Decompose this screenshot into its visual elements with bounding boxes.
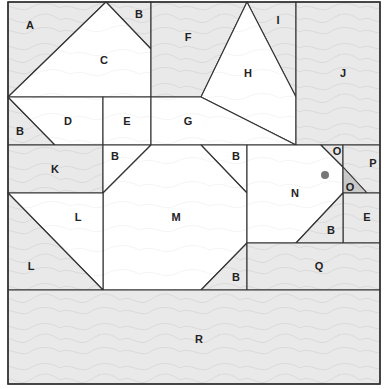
piece-label: B [232, 150, 240, 162]
piece-label: B [111, 150, 119, 162]
marker-dot [321, 171, 329, 179]
piece-label: P [369, 157, 376, 169]
piece-label: K [51, 163, 59, 175]
piece-texture [247, 243, 380, 290]
piece-label: J [340, 67, 346, 79]
piece-label: F [185, 31, 192, 43]
piece-texture [296, 2, 380, 145]
puzzle-canvas: ABCFIHJBDEGKBBMLLNOPOEBBQR [0, 0, 385, 389]
piece-label: E [123, 115, 130, 127]
piece-q: Q [247, 243, 380, 290]
piece-e: E [103, 97, 151, 145]
piece-e: E [343, 193, 380, 243]
piece-label: L [75, 211, 82, 223]
piece-label: R [195, 333, 203, 345]
piece-label: O [333, 145, 342, 157]
piece-label: O [346, 181, 355, 193]
piece-label: B [135, 8, 143, 20]
piece-label: E [363, 211, 370, 223]
piece-label: M [171, 211, 180, 223]
piece-k: K [8, 145, 103, 193]
piece-label: H [244, 67, 252, 79]
piece-texture [343, 193, 380, 243]
piece-label: C [100, 54, 108, 66]
piece-label: B [232, 271, 240, 283]
piece-label: N [291, 187, 299, 199]
piece-label: D [64, 115, 72, 127]
puzzle-diagram: ABCFIHJBDEGKBBMLLNOPOEBBQR [0, 0, 385, 389]
piece-r: R [8, 290, 380, 384]
piece-label: I [276, 14, 279, 26]
piece-label: G [184, 115, 193, 127]
piece-label: Q [315, 260, 324, 272]
piece-texture [8, 290, 380, 384]
piece-label: B [327, 224, 335, 236]
piece-j: J [296, 2, 380, 145]
piece-label: A [26, 19, 34, 31]
piece-label: L [28, 260, 35, 272]
piece-label: B [16, 125, 24, 137]
puzzle-pieces: ABCFIHJBDEGKBBMLLNOPOEBBQR [8, 2, 380, 384]
